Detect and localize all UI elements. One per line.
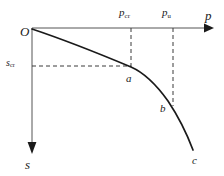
p-axis-arrowhead [204, 24, 214, 33]
point-a-label: a [126, 73, 132, 84]
s-axis-arrowhead [28, 142, 37, 154]
point-b-label: b [160, 103, 166, 114]
s-cr-tick-label: scr [6, 58, 15, 68]
ps-curve-figure: O p s pcr pu scr a b c [0, 0, 224, 176]
p-u-tick-label: pu [162, 7, 171, 18]
p-u-subscript: u [168, 12, 172, 19]
p-cr-tick-label: pcr [119, 7, 130, 18]
origin-label: O [20, 25, 29, 38]
p-axis-label: p [205, 9, 212, 22]
p-cr-base: p [119, 6, 125, 18]
ps-curve-path [32, 29, 193, 150]
point-c-label: c [192, 155, 197, 166]
p-cr-subscript: cr [125, 12, 131, 19]
ps-curve-plot [0, 0, 224, 176]
s-axis-label: s [25, 158, 30, 171]
s-cr-subscript: cr [10, 61, 15, 68]
p-u-base: p [162, 6, 168, 18]
